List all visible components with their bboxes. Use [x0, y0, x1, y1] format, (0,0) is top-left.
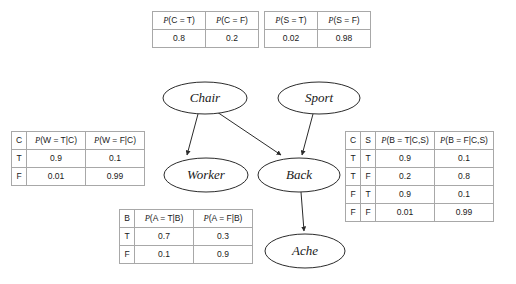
column-header: P(A = F|B): [194, 210, 253, 228]
sport-cpt-table: P(S = T)P(S = F)0.020.98: [264, 11, 371, 48]
column-header: P(C = F): [206, 12, 259, 30]
table-row: F0.010.99: [12, 168, 145, 186]
table-cell: F: [120, 246, 135, 264]
table-cell: 0.8: [435, 168, 494, 186]
node-chair[interactable]: Chair: [163, 82, 247, 114]
column-header: P(W = F|C): [86, 132, 145, 150]
table-cell: 0.1: [86, 150, 145, 168]
table-cell: T: [361, 186, 376, 204]
node-sport-label: Sport: [305, 90, 334, 105]
table-row: TT0.90.1: [346, 150, 494, 168]
table-cell: 0.9: [376, 186, 435, 204]
table-cell: T: [361, 150, 376, 168]
table-cell: F: [346, 186, 361, 204]
table-row: TF0.20.8: [346, 168, 494, 186]
table-cell: 0.2: [206, 30, 259, 48]
edge-chair-back: [217, 112, 281, 155]
column-header: C: [346, 132, 361, 150]
column-header: P(A = T|B): [135, 210, 194, 228]
node-back-label: Back: [286, 167, 312, 182]
node-back[interactable]: Back: [258, 158, 340, 192]
table-cell: 0.8: [153, 30, 206, 48]
table-cell: 0.9: [376, 150, 435, 168]
table-cell: 0.9: [27, 150, 86, 168]
column-header: P(B = F|C,S): [435, 132, 494, 150]
column-header: P(C = T): [153, 12, 206, 30]
node-worker[interactable]: Worker: [164, 158, 248, 192]
column-header: P(S = T): [265, 12, 318, 30]
table-cell: 0.1: [435, 186, 494, 204]
table-cell: 0.2: [376, 168, 435, 186]
node-ache[interactable]: Ache: [265, 234, 345, 268]
table-cell: 0.99: [435, 204, 494, 222]
table-row: FT0.90.1: [346, 186, 494, 204]
table-header-row: P(C = T)P(C = F): [153, 12, 259, 30]
node-chair-label: Chair: [190, 90, 221, 105]
table-cell: 0.9: [194, 246, 253, 264]
table-cell: 0.3: [194, 228, 253, 246]
edge-back-ache: [301, 192, 304, 231]
table-cell: F: [12, 168, 27, 186]
chair-cpt-table: P(C = T)P(C = F)0.80.2: [152, 11, 259, 48]
column-header: B: [120, 210, 135, 228]
table-row: 0.80.2: [153, 30, 259, 48]
table-row: T0.70.3: [120, 228, 253, 246]
column-header: P(W = T|C): [27, 132, 86, 150]
table-cell: F: [361, 204, 376, 222]
back-cpt-table: CSP(B = T|C,S)P(B = F|C,S)TT0.90.1TF0.20…: [345, 131, 494, 222]
table-header-row: BP(A = T|B)P(A = F|B): [120, 210, 253, 228]
ache-cpt-table: BP(A = T|B)P(A = F|B)T0.70.3F0.10.9: [119, 209, 253, 264]
table-row: F0.10.9: [120, 246, 253, 264]
column-header: P(B = T|C,S): [376, 132, 435, 150]
column-header: C: [12, 132, 27, 150]
table-cell: 0.01: [376, 204, 435, 222]
table-cell: T: [346, 168, 361, 186]
table-header-row: CSP(B = T|C,S)P(B = F|C,S): [346, 132, 494, 150]
column-header: S: [361, 132, 376, 150]
edge-chair-worker: [187, 114, 198, 155]
table-cell: 0.1: [135, 246, 194, 264]
table-row: T0.90.1: [12, 150, 145, 168]
table-cell: 0.98: [318, 30, 371, 48]
table-cell: 0.7: [135, 228, 194, 246]
table-row: FF0.010.99: [346, 204, 494, 222]
edge-sport-back: [302, 114, 313, 155]
table-cell: T: [12, 150, 27, 168]
column-header: P(S = F): [318, 12, 371, 30]
table-cell: T: [346, 150, 361, 168]
table-cell: F: [346, 204, 361, 222]
table-cell: 0.99: [86, 168, 145, 186]
table-header-row: P(S = T)P(S = F): [265, 12, 371, 30]
node-worker-label: Worker: [187, 167, 226, 182]
node-ache-label: Ache: [291, 243, 318, 258]
table-cell: 0.1: [435, 150, 494, 168]
node-sport[interactable]: Sport: [278, 82, 360, 114]
worker-cpt-table: CP(W = T|C)P(W = F|C)T0.90.1F0.010.99: [11, 131, 145, 186]
table-cell: 0.01: [27, 168, 86, 186]
diagram-canvas: Chair Sport Worker Back Ache P(C = T)P(C…: [0, 0, 516, 284]
table-header-row: CP(W = T|C)P(W = F|C): [12, 132, 145, 150]
table-cell: T: [120, 228, 135, 246]
table-cell: F: [361, 168, 376, 186]
table-row: 0.020.98: [265, 30, 371, 48]
table-cell: 0.02: [265, 30, 318, 48]
